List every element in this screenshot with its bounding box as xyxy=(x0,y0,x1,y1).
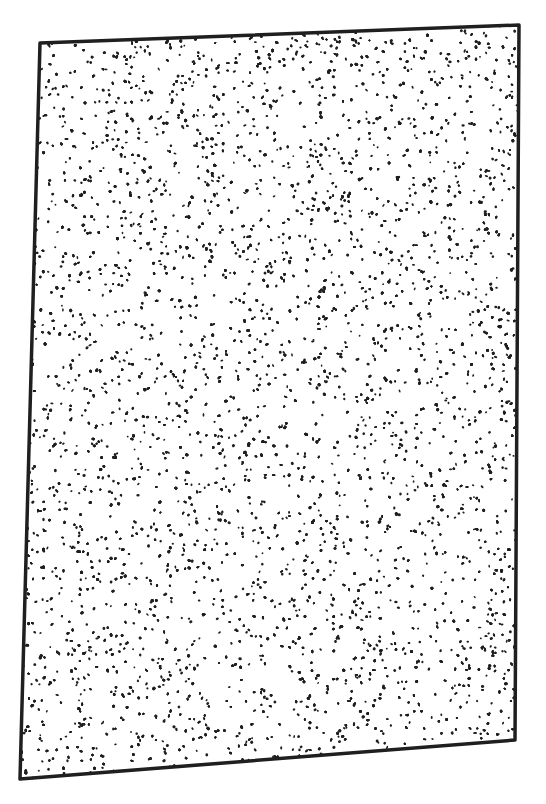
stipple-dot xyxy=(411,627,414,630)
stipple-dot xyxy=(135,51,139,55)
stipple-dot xyxy=(85,577,87,580)
stipple-dot xyxy=(178,53,181,56)
stipple-dot xyxy=(88,501,92,504)
stipple-dot xyxy=(278,86,282,90)
stipple-dot xyxy=(459,85,462,88)
stipple-dot xyxy=(512,568,514,570)
stipple-dot xyxy=(280,746,282,749)
stipple-dot xyxy=(185,400,188,403)
stipple-dot xyxy=(345,410,349,414)
stipple-dot xyxy=(386,718,389,720)
stipple-dot xyxy=(117,283,120,286)
stipple-dot xyxy=(477,74,480,77)
stipple-dot xyxy=(386,411,389,414)
stipple-dot xyxy=(343,191,346,194)
stipple-dot xyxy=(53,327,55,330)
stipple-dot xyxy=(288,618,291,620)
stipple-dot xyxy=(336,353,339,355)
stipple-dot xyxy=(372,704,375,708)
stipple-dot xyxy=(64,179,67,182)
stipple-dot xyxy=(324,243,327,246)
stipple-dot xyxy=(277,236,280,238)
stipple-dot xyxy=(390,643,394,646)
stipple-dot xyxy=(204,487,206,490)
stipple-dot xyxy=(151,734,154,737)
stipple-dot xyxy=(503,650,507,654)
stipple-dot xyxy=(475,58,477,61)
stipple-dot xyxy=(80,611,84,615)
stipple-dot xyxy=(294,39,298,42)
stipple-dot xyxy=(427,233,430,236)
stipple-dot xyxy=(184,409,188,412)
stipple-dot xyxy=(267,436,270,439)
stipple-dot xyxy=(382,732,385,736)
stipple-dot xyxy=(216,505,218,508)
stipple-dot xyxy=(297,467,300,470)
stipple-dot xyxy=(494,458,497,461)
stipple-dot xyxy=(101,88,106,93)
stipple-dot xyxy=(394,380,396,382)
stipple-dot xyxy=(124,266,127,269)
stipple-dot xyxy=(273,633,277,637)
stipple-dot xyxy=(507,75,510,78)
stipple-dot xyxy=(252,540,254,542)
stipple-dot xyxy=(210,137,214,140)
stipple-dot xyxy=(328,155,331,157)
stipple-dot xyxy=(270,599,274,603)
stipple-dot xyxy=(353,722,356,726)
stipple-dot xyxy=(178,426,180,428)
stipple-dot xyxy=(439,376,442,378)
stipple-dot xyxy=(105,134,108,137)
stipple-dot xyxy=(145,668,149,672)
stipple-dot xyxy=(281,547,285,550)
stipple-dot xyxy=(48,487,51,490)
stipple-dot xyxy=(251,512,254,514)
stipple-dot xyxy=(83,676,86,680)
stipple-dot xyxy=(433,70,436,73)
stipple-dot xyxy=(448,60,452,63)
stipple-dot xyxy=(137,128,139,130)
stipple-dot xyxy=(47,416,49,419)
stipple-dot xyxy=(227,120,230,124)
stipple-dot xyxy=(140,466,143,470)
stipple-dot xyxy=(94,114,98,117)
stipple-dot xyxy=(287,218,291,221)
stipple-dot xyxy=(214,736,217,739)
stipple-dot xyxy=(390,108,393,111)
stipple-dot xyxy=(81,317,84,320)
stipple-dot xyxy=(377,570,381,573)
stipple-dot xyxy=(459,706,461,709)
stipple-dot xyxy=(196,431,200,435)
stipple-dot xyxy=(384,337,387,340)
stipple-dot xyxy=(169,674,172,677)
stipple-dot xyxy=(333,211,337,215)
stipple-dot xyxy=(122,563,126,567)
stipple-dot xyxy=(326,190,329,193)
stipple-dot xyxy=(188,304,192,308)
stipple-dot xyxy=(214,42,217,45)
stipple-dot xyxy=(125,63,128,66)
stipple-dot xyxy=(88,277,90,280)
stipple-dot xyxy=(145,576,149,580)
stipple-dot xyxy=(131,689,134,692)
stipple-dot xyxy=(124,101,127,104)
stipple-dot xyxy=(280,570,284,573)
stipple-dot xyxy=(250,81,254,85)
stipple-dot xyxy=(500,387,503,391)
stipple-dot xyxy=(440,328,443,332)
stipple-dot xyxy=(510,237,513,240)
stipple-dot xyxy=(412,480,414,483)
stipple-dot xyxy=(421,342,424,346)
stipple-dot xyxy=(472,606,475,609)
stipple-dot xyxy=(195,581,197,583)
stipple-dot xyxy=(212,603,215,606)
stipple-dot xyxy=(438,720,441,723)
stipple-dot xyxy=(504,682,507,685)
stipple-dot xyxy=(354,435,358,439)
stipple-dot xyxy=(439,291,443,295)
stipple-dot xyxy=(99,170,102,173)
stipple-dot xyxy=(249,132,252,135)
stipple-dot xyxy=(272,364,275,368)
stipple-dot xyxy=(72,338,75,341)
stipple-dot xyxy=(130,65,133,68)
